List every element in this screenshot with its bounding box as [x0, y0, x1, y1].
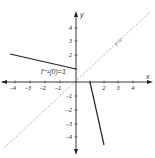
- x-tick-label: 2: [101, 85, 105, 91]
- y-tick-labels: 4 3 2 −1 −2 −3 −4: [66, 25, 73, 140]
- x-tick-label: −1: [55, 85, 61, 91]
- graph-plot: −4 −3 −2 −1 2 3 4 4 3 2 −1 −2 −3 −4 x y …: [0, 0, 155, 158]
- y-tick-label: 4: [69, 25, 72, 31]
- y-tick-label: −3: [66, 121, 73, 127]
- x-tick-label: 4: [131, 85, 134, 91]
- inverse-segment-lower: [90, 82, 104, 145]
- y-tick-label: 3: [69, 38, 73, 44]
- x-axis-label: x: [145, 73, 150, 80]
- y-tick-label: −2: [66, 107, 72, 113]
- identity-line: [4, 12, 150, 148]
- x-tick-label: 3: [116, 85, 120, 91]
- x-axis-arrow-left-icon: [1, 80, 7, 84]
- x-tick-label: −2: [40, 85, 46, 91]
- x-tick-labels: −4 −3 −2 −1 2 3 4: [10, 85, 135, 91]
- x-tick-label: −4: [10, 85, 16, 91]
- y-tick-label: −1: [66, 93, 72, 99]
- y-tick-label: 2: [68, 52, 72, 58]
- y-axis-arrow-up-icon: [74, 11, 78, 17]
- y-axis-arrow-down-icon: [74, 149, 78, 155]
- x-tick-label: −3: [25, 85, 32, 91]
- inverse-segment-upper: [10, 54, 76, 69]
- y-tick-label: −4: [66, 134, 72, 140]
- x-axis-arrow-right-icon: [147, 80, 153, 84]
- y-axis-label: y: [79, 11, 84, 19]
- inverse-annotation: f⁻¹(0)=1: [41, 68, 66, 76]
